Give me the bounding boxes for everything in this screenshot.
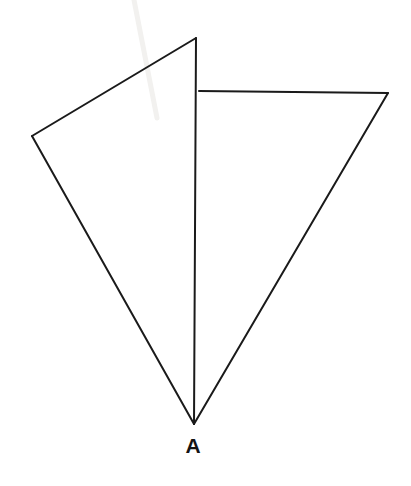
figure-background (0, 0, 411, 486)
geometry-figure: A (0, 0, 411, 486)
vertex-label-a: A (185, 434, 200, 457)
geometry-canvas: A (0, 0, 411, 486)
